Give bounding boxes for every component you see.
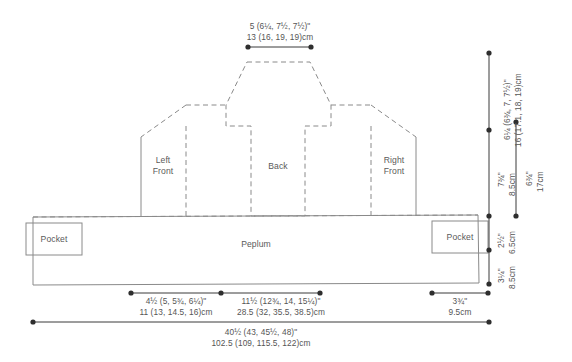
right-front-line1: Right <box>384 155 405 166</box>
panel-label-pocket-left: Pocket <box>41 234 68 245</box>
measure-peplum-lower-cm: 8.5cm <box>507 266 518 289</box>
measure-bottom-total-in: 40½ (43, 45½, 48)" <box>211 327 310 338</box>
panel-label-pocket-right: Pocket <box>447 232 474 243</box>
measure-bottom-total: 40½ (43, 45½, 48)" 102.5 (109, 115.5, 12… <box>211 327 310 349</box>
measure-right-upper-cm: 16 (17.1, 18, 19)cm <box>513 73 524 147</box>
peplum-line1: Peplum <box>241 239 271 250</box>
left-front-line1: Left <box>153 155 174 166</box>
measure-bottom-total-cm: 102.5 (109, 115.5, 122)cm <box>211 338 310 349</box>
measure-bottom-pocket: 3¾" 9.5cm <box>448 296 471 318</box>
measure-right-outer-in: 6¾" <box>524 171 535 186</box>
measure-peplum-upper-cm: 6.5cm <box>507 231 518 254</box>
measure-bottom-mid-in: 11½ (12¾, 14, 15¼)" <box>237 296 325 307</box>
measure-bottom-mid-cm: 28.5 (32, 35.5, 38.5)cm <box>237 307 325 318</box>
measure-top-shoulder: 5 (6¼, 7½, 7½)" 13 (16, 19, 19)cm <box>247 21 314 43</box>
right-front-slope-outer <box>371 105 416 137</box>
dimension-endpoints <box>30 44 518 324</box>
measure-bottom-mid: 11½ (12¾, 14, 15¼)" 28.5 (32, 35.5, 38.5… <box>237 296 325 318</box>
right-front-line2: Front <box>384 166 405 177</box>
measure-right-mid-cm: 8.5cm <box>507 173 518 196</box>
measure-right-mid-in: 7¾" <box>496 172 507 187</box>
measure-bottom-left: 4½ (5, 5¾, 6¼)" 11 (13, 14.5, 16)cm <box>139 296 212 318</box>
measure-bottom-pocket-cm: 9.5cm <box>448 307 471 318</box>
bodice-outline-dashed <box>226 62 331 216</box>
measure-top-shoulder-in: 5 (6¼, 7½, 7½)" <box>247 21 314 32</box>
measure-bottom-pocket-in: 3¾" <box>448 296 471 307</box>
schematic-canvas: Left Front Back Right Front Peplum Pocke… <box>0 0 572 362</box>
panel-label-left-front: Left Front <box>153 155 174 177</box>
measure-right-upper-in: 6¼ (6¾, 7, 7½)" <box>502 79 513 140</box>
panel-label-peplum: Peplum <box>241 239 271 250</box>
measure-top-shoulder-cm: 13 (16, 19, 19)cm <box>247 32 314 43</box>
left-front-line2: Front <box>153 166 174 177</box>
peplum-outline <box>33 215 479 285</box>
measure-bottom-left-in: 4½ (5, 5¾, 6¼)" <box>139 296 212 307</box>
measure-bottom-left-cm: 11 (13, 14.5, 16)cm <box>139 307 212 318</box>
pocket-left-line1: Pocket <box>41 234 68 245</box>
panel-label-right-front: Right Front <box>384 155 405 177</box>
measure-right-outer-cm: 17cm <box>535 171 546 192</box>
measure-peplum-lower-in: 3¼" <box>496 268 507 283</box>
measure-peplum-upper-in: 2½" <box>496 233 507 248</box>
left-front-shoulder-slope <box>141 105 186 137</box>
back-line1: Back <box>268 161 288 172</box>
panel-label-back: Back <box>268 161 288 172</box>
pocket-right-line1: Pocket <box>447 232 474 243</box>
